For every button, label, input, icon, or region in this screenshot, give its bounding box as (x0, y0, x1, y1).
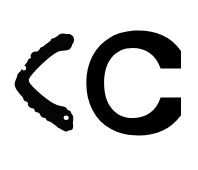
chevron-bottom-edge-blob (56, 121, 67, 129)
glyph-artwork (0, 0, 198, 170)
chevron-vertex-lower-blob (16, 82, 24, 90)
chevron-edge-nick-2 (22, 65, 26, 70)
chevron-upper-body-blob-2 (31, 51, 42, 60)
chevron-upper-body-blob (54, 41, 66, 51)
chevron-top-edge-blob (58, 34, 69, 40)
chevron-bottom-tip-blob (66, 122, 73, 131)
chevron-lower-body-blob-2 (40, 109, 51, 118)
chevron-lower-body-blob (28, 100, 38, 109)
chevron-lower-upper-blob (23, 94, 31, 102)
chevron-vertex-upper-blob (17, 72, 25, 81)
image-canvas: <C (0, 0, 198, 170)
chevron-edge-nick-1 (64, 116, 69, 120)
chevron-upper-mid-blob (40, 47, 49, 54)
